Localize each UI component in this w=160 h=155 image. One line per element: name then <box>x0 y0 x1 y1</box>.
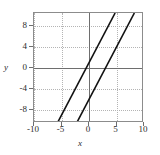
y-axis-title: y <box>4 62 8 72</box>
x-tick-label: -5 <box>48 124 74 134</box>
x-axis-title: x <box>0 138 160 148</box>
y-tick-mark <box>29 109 33 110</box>
y-tick-label: 8 <box>0 20 27 30</box>
plot-area <box>33 12 143 122</box>
y-tick-mark <box>29 25 33 26</box>
y-tick-label: -4 <box>0 83 27 93</box>
y-tick-mark <box>29 88 33 89</box>
series-container <box>34 13 143 122</box>
y-tick-label: -8 <box>0 104 27 114</box>
y-tick-mark <box>29 67 33 68</box>
x-tick-label: 10 <box>130 124 156 134</box>
x-tick-label: 0 <box>75 124 101 134</box>
chart-figure: -10 -5 0 5 10 8 4 0 -4 -8 x y <box>0 0 160 155</box>
y-tick-mark <box>29 46 33 47</box>
y-tick-label: 4 <box>0 41 27 51</box>
x-tick-label: 5 <box>103 124 129 134</box>
line-series-2 <box>77 13 135 122</box>
x-tick-label: -10 <box>20 124 46 134</box>
